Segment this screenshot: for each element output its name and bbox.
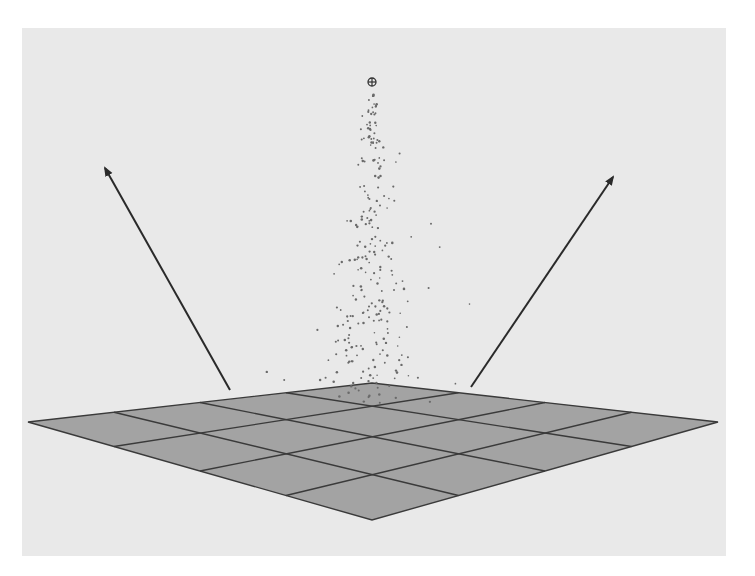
particle (377, 186, 379, 188)
particle (351, 360, 353, 362)
particle (469, 303, 471, 305)
particle (352, 382, 354, 384)
particle (347, 337, 349, 339)
particle (377, 387, 379, 389)
particle (374, 332, 376, 334)
particle (369, 374, 372, 377)
particle (347, 391, 350, 394)
particle (369, 210, 371, 212)
particle (368, 367, 370, 369)
particle (374, 254, 376, 256)
particle (335, 341, 337, 343)
particle (368, 305, 370, 307)
particle (429, 401, 431, 403)
particle (397, 345, 399, 347)
particle (399, 336, 401, 338)
left-direction-arrow (105, 168, 230, 390)
particle (376, 200, 378, 202)
particle (365, 223, 367, 225)
particle (373, 211, 375, 213)
particle (345, 349, 348, 352)
particle (374, 236, 376, 238)
particle (366, 217, 368, 219)
particle (360, 267, 363, 270)
particle (355, 345, 357, 347)
particle (376, 139, 378, 141)
direction-arrows (105, 168, 613, 390)
particle (417, 377, 419, 379)
particle (366, 124, 368, 126)
particle (371, 302, 373, 304)
particle (379, 165, 381, 167)
emitter-crosshair-icon[interactable] (368, 78, 376, 86)
particle (365, 255, 367, 257)
particle (430, 223, 432, 225)
particle (350, 385, 353, 388)
particle (386, 354, 389, 357)
scene-canvas[interactable] (0, 0, 755, 576)
particle (348, 334, 350, 336)
particle (378, 167, 381, 170)
particle (382, 300, 384, 302)
ground-plane-surface[interactable] (28, 383, 718, 520)
particle (346, 355, 348, 357)
particle (348, 342, 350, 344)
particle (383, 159, 385, 161)
particle (372, 359, 374, 361)
particle (379, 402, 381, 404)
particle (367, 127, 370, 130)
particle (408, 375, 410, 377)
particle (350, 220, 353, 223)
particle (371, 238, 373, 240)
particle (375, 112, 377, 114)
particle (342, 324, 344, 326)
particle (383, 337, 386, 340)
particle (336, 306, 338, 308)
particle (348, 259, 351, 262)
particle (374, 175, 376, 177)
particle (376, 142, 378, 144)
particle (375, 125, 377, 127)
particle (373, 320, 375, 322)
particle (403, 288, 406, 291)
particle (316, 329, 318, 331)
particle (391, 274, 393, 276)
particle (395, 161, 397, 163)
particle (383, 195, 385, 197)
particle (365, 272, 367, 274)
particle (386, 320, 388, 322)
particle (379, 353, 381, 355)
particle (354, 258, 356, 260)
particle (379, 310, 381, 312)
particle (379, 175, 381, 177)
particle (354, 387, 356, 389)
particle (333, 273, 335, 275)
particle (347, 362, 349, 364)
particle (368, 222, 370, 224)
particle (368, 136, 370, 138)
particle (378, 140, 380, 142)
particle (352, 315, 354, 317)
particle (398, 359, 400, 361)
particle (364, 245, 366, 247)
particle (367, 380, 369, 382)
particle (379, 277, 381, 279)
particle (377, 176, 380, 179)
particle (359, 241, 361, 243)
particle (356, 244, 358, 246)
right-direction-arrow (471, 177, 613, 387)
particle (374, 305, 376, 307)
particle (391, 242, 394, 245)
particle (338, 263, 340, 265)
particle (347, 320, 349, 322)
particle (379, 205, 381, 207)
particle (370, 113, 372, 115)
particle (368, 262, 370, 264)
particle (362, 160, 364, 162)
particle (319, 379, 322, 382)
particle (332, 380, 335, 383)
particle (382, 349, 384, 351)
ground-plane[interactable] (28, 383, 718, 520)
particle (401, 354, 403, 356)
particle (355, 298, 357, 300)
